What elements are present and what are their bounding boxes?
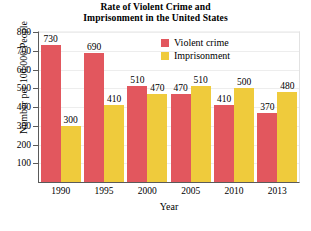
bar-imprisonment-1990: 300 [61,126,81,182]
y-tick-mark [33,70,38,71]
y-tick-label: 200 [0,140,31,150]
bar-imprisonment-2010: 500 [234,88,254,182]
y-tick-mark [33,163,38,164]
legend-label: Imprisonment [174,50,230,61]
x-tick-label-2010: 2010 [211,186,257,196]
bar-value-label: 410 [217,94,231,104]
y-tick-mark [33,32,38,33]
bar-value-label: 690 [87,42,101,52]
legend-label: Violent crime [174,37,229,48]
bar-imprisonment-2005: 510 [191,86,211,182]
bar-value-label: 370 [260,102,274,112]
y-tick-label: 800 [0,27,31,37]
x-axis-title: Year [38,201,300,212]
x-tick-label-1990: 1990 [38,186,84,196]
chart-title-line-2: Imprisonment in the United States [0,12,311,23]
bar-imprisonment-1995: 410 [104,105,124,182]
bar-violent-crime-1990: 730 [41,45,61,182]
y-tick-label: 400 [0,102,31,112]
y-tick-label: 600 [0,65,31,75]
bar-value-label: 510 [194,75,208,85]
bar-violent-crime-2010: 410 [214,105,234,182]
bar-imprisonment-2013: 480 [277,92,297,182]
x-tick-label-2000: 2000 [124,186,170,196]
y-tick-label: 700 [0,46,31,56]
bar-value-label: 470 [174,83,188,93]
legend-item-imprisonment: Imprisonment [161,49,230,62]
y-tick-label: 100 [0,158,31,168]
bar-value-label: 470 [150,83,164,93]
y-tick-mark [33,107,38,108]
legend-swatch-icon [161,52,169,60]
bar-value-label: 300 [64,115,78,125]
legend-item-violent-crime: Violent crime [161,36,230,49]
chart-title-line-1: Rate of Violent Crime and [0,1,311,12]
x-tick-label-1995: 1995 [81,186,127,196]
bar-value-label: 510 [130,75,144,85]
y-tick-mark [33,145,38,146]
y-tick-label: 500 [0,83,31,93]
legend-swatch-icon [161,39,169,47]
bar-violent-crime-2005: 470 [171,94,191,182]
bar-value-label: 730 [44,34,58,44]
y-tick-mark [33,126,38,127]
x-tick-label-2013: 2013 [254,186,300,196]
bar-value-label: 500 [237,77,251,87]
y-tick-mark [33,88,38,89]
bar-group: 690410 [84,32,124,182]
bar-violent-crime-2013: 370 [257,113,277,182]
y-tick-mark [33,51,38,52]
bar-group: 370480 [257,32,297,182]
bar-value-label: 480 [280,81,294,91]
bar-value-label: 410 [107,94,121,104]
bar-violent-crime-1995: 690 [84,53,104,182]
bar-violent-crime-2000: 510 [127,86,147,182]
chart-title: Rate of Violent Crime and Imprisonment i… [0,1,311,23]
chart-legend: Violent crimeImprisonment [161,36,230,62]
bar-group: 730300 [41,32,81,182]
x-tick-label-2005: 2005 [168,186,214,196]
bar-chart: Rate of Violent Crime and Imprisonment i… [0,0,311,231]
y-tick-label: 300 [0,121,31,131]
x-axis-ticks: 199019952000200520102013 [39,186,299,200]
bar-imprisonment-2000: 470 [147,94,167,182]
